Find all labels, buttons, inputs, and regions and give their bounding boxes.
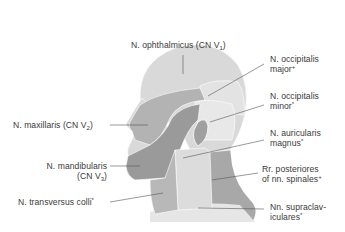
label-rr-posteriores: Rr. posterioresof nn. spinales+ — [262, 164, 322, 184]
diagram-canvas: N. ophthalmicus (CN V1) N. occipitalisma… — [0, 0, 345, 232]
label-occipitalis-minor: N. occipitalisminor* — [270, 91, 319, 111]
label-maxillaris: N. maxillaris (CN V2) — [13, 120, 93, 130]
label-mandibularis: N. mandibularis(CN V3) — [47, 161, 107, 181]
label-supraclaviculares: Nn. supraclav-iculares* — [270, 202, 326, 222]
label-occipitalis-major: N. occipitalismajor+ — [270, 54, 319, 74]
label-ophthalmicus: N. ophthalmicus (CN V1) — [131, 40, 226, 50]
label-auricularis-magnus: N. auricularismagnus* — [270, 128, 321, 148]
region-auricularis-magnus — [175, 148, 212, 210]
label-transversus-colli: N. transversus colli* — [18, 197, 94, 207]
